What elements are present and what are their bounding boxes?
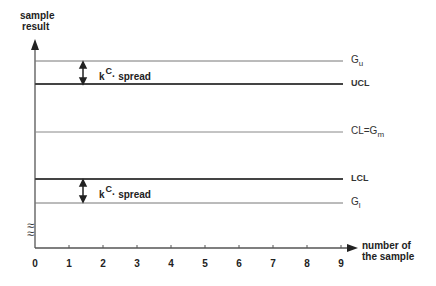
x-tick-9: 9 [334, 258, 348, 269]
y-axis-label: sample result [20, 10, 54, 32]
gl-label: Gl [351, 196, 361, 210]
x-tick-7: 7 [266, 258, 280, 269]
x-axis-label: number of the sample [362, 240, 414, 262]
x-axis-label-line1: number of [362, 240, 414, 251]
cl-label: CL=Gm [351, 125, 384, 139]
x-tick-0: 0 [28, 258, 42, 269]
x-tick-3: 3 [130, 258, 144, 269]
x-tick-1: 1 [62, 258, 76, 269]
axis-break-icon: ≈≈ [27, 222, 34, 238]
lcl-label: LCL [351, 173, 369, 183]
x-tick-6: 6 [232, 258, 246, 269]
x-axis-label-line2: the sample [362, 251, 414, 262]
gu-label: Gu [351, 54, 363, 68]
x-tick-2: 2 [96, 258, 110, 269]
x-tick-5: 5 [198, 258, 212, 269]
ucl-label: UCL [351, 78, 370, 88]
x-tick-8: 8 [300, 258, 314, 269]
upper-spread-label: kC· spread [99, 66, 151, 82]
lower-spread-label: kC· spread [99, 184, 151, 200]
x-tick-4: 4 [164, 258, 178, 269]
y-axis-label-line1: sample [20, 10, 54, 21]
y-axis-label-line2: result [22, 21, 54, 32]
